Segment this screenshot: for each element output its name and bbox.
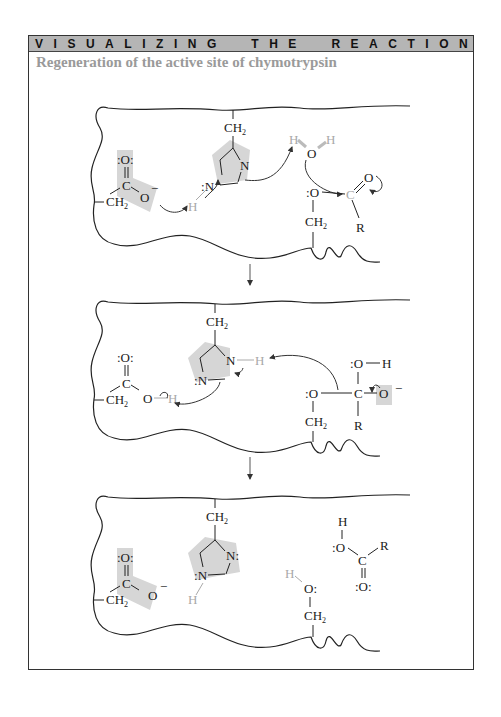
his-ch2: CH2 xyxy=(206,509,228,526)
tetra-hydroxyl-oxygen: :O xyxy=(350,356,363,371)
asp-carbon: C xyxy=(122,376,131,391)
his-ch2: CH2 xyxy=(206,314,228,331)
asp-carbonyl-oxygen: :O: xyxy=(117,350,134,365)
acid-h: H xyxy=(338,514,347,529)
electron-arrow xyxy=(160,392,168,398)
asp-charge: − xyxy=(160,579,167,594)
acid-carbon: C xyxy=(358,553,367,568)
asp-oxygen-minus: O xyxy=(148,588,157,603)
tetra-hydroxyl-h: H xyxy=(382,356,391,371)
asp-ch2: CH2 xyxy=(106,392,128,409)
tetra-charge: − xyxy=(395,381,402,396)
water-oxygen: O xyxy=(307,146,316,161)
his-proton: H xyxy=(255,353,264,368)
ser-proton: H xyxy=(285,566,294,581)
tetra-r-group: R xyxy=(354,418,363,433)
his-proton: H xyxy=(188,199,197,214)
his-n3: N xyxy=(226,353,236,368)
asp-carbonyl-oxygen: :O: xyxy=(117,550,134,565)
his-ch2: CH2 xyxy=(224,120,246,137)
his-n1: :N xyxy=(194,373,208,388)
panel-3: :O: C O − CH2 CH2 N: :N H H O: CH2 H :O … xyxy=(91,495,410,651)
his-n3: N xyxy=(240,158,250,173)
asp-carbon: C xyxy=(122,576,131,591)
acid-r-group: R xyxy=(380,538,389,553)
asp-oxygen-minus: O xyxy=(140,190,149,205)
acyl-carbon: C xyxy=(346,187,355,202)
ser-ch2: CH2 xyxy=(305,414,327,431)
his-n1: :N xyxy=(194,568,208,583)
panel-2: :O: C O H CH2 CH2 N H :N :O H C O − R :O xyxy=(91,300,410,456)
electron-arrow xyxy=(160,205,187,212)
asp-oxygen: O xyxy=(143,391,152,406)
his-n1: :N xyxy=(201,179,215,194)
electron-arrow xyxy=(235,368,243,373)
acyl-r-group: R xyxy=(356,220,365,235)
ser-ch2: CH2 xyxy=(304,608,326,625)
ser-oxygen: O: xyxy=(304,581,317,596)
acyl-oxygen: O xyxy=(364,170,373,185)
tetra-oxygen-minus: O xyxy=(379,386,388,401)
ser-ch2: CH2 xyxy=(305,214,327,231)
ser-oxygen: :O xyxy=(306,185,319,200)
reaction-diagram: :O: C O − CH2 CH2 N :N H H O H :O C O xyxy=(0,0,501,717)
water-h1: H xyxy=(289,132,298,147)
electron-arrow xyxy=(270,355,338,390)
his-n3: N: xyxy=(226,548,239,563)
his-proton: H xyxy=(188,592,197,607)
electron-arrow xyxy=(245,147,292,181)
asp-carbonyl-oxygen: :O: xyxy=(117,152,134,167)
acid-oxygen: :O xyxy=(332,540,345,555)
asp-carbon: C xyxy=(122,178,131,193)
ser-oxygen: :O xyxy=(305,386,318,401)
acid-carbonyl-oxygen: :O: xyxy=(355,579,372,594)
asp-charge: − xyxy=(151,181,158,196)
panel-1: :O: C O − CH2 CH2 N :N H H O H :O C O xyxy=(91,106,410,262)
tetra-carbon: C xyxy=(354,386,363,401)
water-h2: H xyxy=(326,132,335,147)
